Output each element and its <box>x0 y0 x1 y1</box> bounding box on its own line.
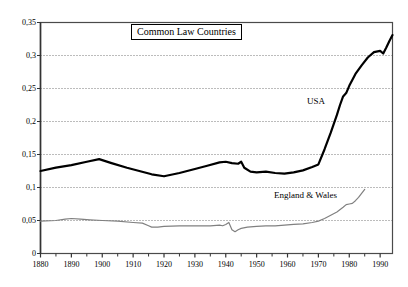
x-axis-tick-label: 1950 <box>242 260 272 269</box>
x-axis-tick-label: 1980 <box>334 260 364 269</box>
x-axis-tick-label: 1940 <box>211 260 241 269</box>
y-axis-tick-label: 0,2 <box>2 117 36 126</box>
plot-frame <box>41 23 393 254</box>
plot-border <box>41 23 393 254</box>
y-axis-tick-label: 0,3 <box>2 51 36 60</box>
chart-title: Common Law Countries <box>131 24 242 40</box>
y-axis-tick-label: 0,35 <box>2 18 36 27</box>
x-axis-tick-label: 1960 <box>273 260 303 269</box>
y-axis-tick-label: 0,25 <box>2 84 36 93</box>
y-axis-tick-label: 0,15 <box>2 150 36 159</box>
x-axis-tick-label: 1970 <box>303 260 333 269</box>
series-label-usa: USA <box>307 96 325 106</box>
series-label-england-wales: England & Wales <box>274 190 337 200</box>
x-axis-tick-label: 1990 <box>365 260 395 269</box>
x-axis-tick-label: 1920 <box>149 260 179 269</box>
x-axis-tick-label: 1900 <box>87 260 117 269</box>
x-axis-tick-label: 1890 <box>56 260 86 269</box>
x-axis-tick-label: 1880 <box>26 260 56 269</box>
y-axis-tick-label: 0,05 <box>2 216 36 225</box>
chart-container: Common Law Countries USA England & Wales… <box>0 0 408 287</box>
series-line-usa <box>41 35 393 176</box>
chart-plot <box>0 0 408 287</box>
y-axis-tick-label: 0 <box>2 249 36 258</box>
data-series-group <box>41 35 393 232</box>
x-axis-tick-label: 1910 <box>118 260 148 269</box>
gridlines <box>41 56 393 221</box>
y-axis-tick-label: 0,1 <box>2 183 36 192</box>
x-axis-tick-label: 1930 <box>180 260 210 269</box>
